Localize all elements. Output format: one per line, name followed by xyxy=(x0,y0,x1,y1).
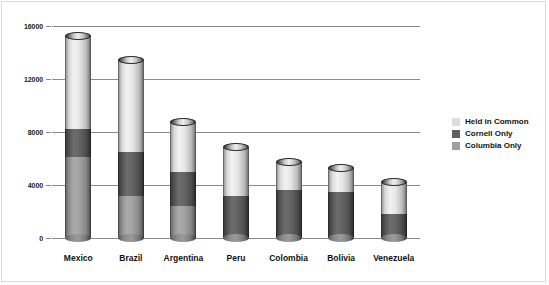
bar-group[interactable]: Bolivia xyxy=(328,26,354,238)
chart-container: 0400080001200016000 MexicoBrazilArgentin… xyxy=(0,0,549,285)
cylinder-bottom-cap xyxy=(381,234,407,242)
y-axis-tick xyxy=(46,132,51,133)
x-axis-category-label: Peru xyxy=(227,253,246,263)
cylinder-bottom-cap xyxy=(118,234,144,242)
legend-item[interactable]: Held in Common xyxy=(452,116,544,127)
legend-label: Columbia Only xyxy=(465,142,521,150)
bar-segment-cornell[interactable] xyxy=(118,152,144,196)
cylinder-top-cap xyxy=(276,158,302,166)
bar-group[interactable]: Colombia xyxy=(276,26,302,238)
legend-swatch-icon xyxy=(452,142,460,150)
bar-segment-columbia[interactable] xyxy=(118,196,144,238)
y-axis-tick xyxy=(46,79,51,80)
legend-swatch-icon xyxy=(452,130,460,138)
y-axis-tick xyxy=(46,26,51,27)
y-axis-label: 16000 xyxy=(24,23,43,30)
y-axis-tick xyxy=(46,238,51,239)
cylinder-top-cap xyxy=(65,32,91,40)
cylinder-top-cap xyxy=(170,118,196,126)
bar-segment-cornell[interactable] xyxy=(276,190,302,238)
cylinder-bottom-cap xyxy=(223,234,249,242)
x-axis-category-label: Bolivia xyxy=(327,253,355,263)
bar-group[interactable]: Brazil xyxy=(118,26,144,238)
bar-group[interactable]: Peru xyxy=(223,26,249,238)
bar-segment-common[interactable] xyxy=(170,122,196,172)
legend-label: Cornell Only xyxy=(465,130,513,138)
x-axis-category-label: Argentina xyxy=(164,253,204,263)
y-axis-label: 0 xyxy=(39,235,43,242)
chart-legend: Held in CommonCornell OnlyColumbia Only xyxy=(452,116,544,152)
x-axis-category-label: Mexico xyxy=(64,253,93,263)
bar-group[interactable]: Argentina xyxy=(170,26,196,238)
y-axis-label: 4000 xyxy=(28,182,43,189)
bar-segment-cornell[interactable] xyxy=(65,129,91,157)
bar-segment-common[interactable] xyxy=(223,147,249,196)
legend-label: Held in Common xyxy=(465,118,529,126)
bar-cylinder[interactable] xyxy=(328,168,354,238)
cylinder-top-cap xyxy=(381,178,407,186)
cylinder-top-cap xyxy=(328,164,354,172)
bar-cylinder[interactable] xyxy=(65,36,91,238)
cylinder-top-cap xyxy=(118,56,144,64)
x-axis-category-label: Venezuela xyxy=(373,253,414,263)
bar-segment-common[interactable] xyxy=(381,182,407,214)
cylinder-bottom-cap xyxy=(170,234,196,242)
bar-segment-common[interactable] xyxy=(118,60,144,151)
bar-segment-columbia[interactable] xyxy=(65,157,91,238)
y-axis-label: 8000 xyxy=(28,129,43,136)
bar-segment-common[interactable] xyxy=(276,162,302,189)
bar-segment-common[interactable] xyxy=(65,36,91,129)
bar-cylinder[interactable] xyxy=(170,122,196,238)
legend-item[interactable]: Columbia Only xyxy=(452,140,544,151)
cylinder-top-cap xyxy=(223,143,249,151)
x-axis-category-label: Colombia xyxy=(269,253,308,263)
bar-cylinder[interactable] xyxy=(223,147,249,238)
plot-area: 0400080001200016000 MexicoBrazilArgentin… xyxy=(52,26,420,238)
cylinder-bottom-cap xyxy=(276,234,302,242)
bar-cylinder[interactable] xyxy=(118,60,144,238)
bar-segment-cornell[interactable] xyxy=(223,196,249,238)
bar-group[interactable]: Venezuela xyxy=(381,26,407,238)
bar-segment-cornell[interactable] xyxy=(328,192,354,238)
x-axis-category-label: Brazil xyxy=(119,253,142,263)
cylinder-bottom-cap xyxy=(328,234,354,242)
bar-segment-cornell[interactable] xyxy=(170,172,196,206)
bar-cylinder[interactable] xyxy=(381,182,407,238)
bar-segment-common[interactable] xyxy=(328,168,354,193)
legend-item[interactable]: Cornell Only xyxy=(452,128,544,139)
bar-group[interactable]: Mexico xyxy=(65,26,91,238)
y-axis-tick xyxy=(46,185,51,186)
cylinder-bottom-cap xyxy=(65,234,91,242)
y-axis-label: 12000 xyxy=(24,76,43,83)
bar-cylinder[interactable] xyxy=(276,162,302,238)
legend-swatch-icon xyxy=(452,118,460,126)
